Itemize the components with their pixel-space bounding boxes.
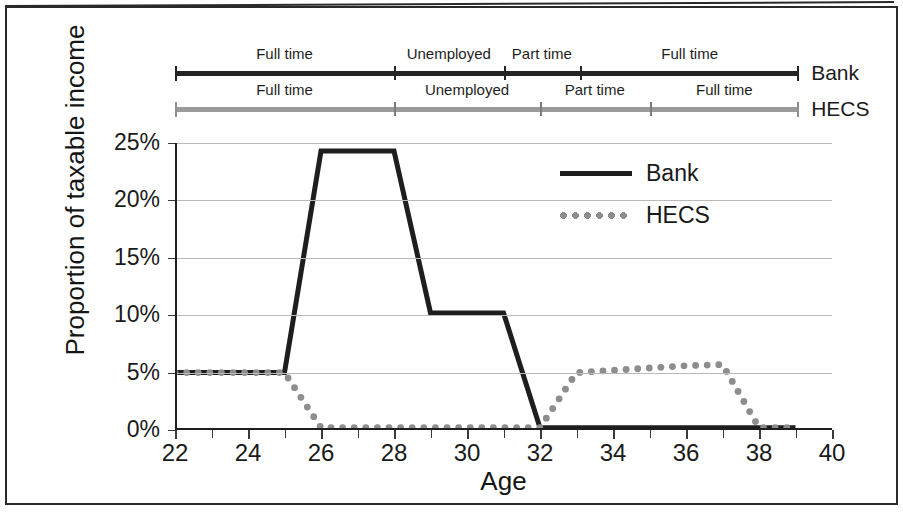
y-tick-mark <box>168 430 175 431</box>
timeline-track <box>175 107 799 112</box>
timeline-end-cap <box>797 66 799 81</box>
timeline-divider <box>580 66 582 80</box>
x-tick-mark-major <box>248 430 250 439</box>
y-tick-label: 10% <box>90 303 160 326</box>
timeline-start-cap <box>175 66 177 81</box>
timeline-divider <box>540 102 542 116</box>
x-tick-mark-major <box>467 430 469 439</box>
x-axis-title: Age <box>175 466 832 496</box>
timeline-divider <box>394 66 396 80</box>
timeline-divider <box>504 66 506 80</box>
chart-figure: Full timeUnemployedPart timeFull timeBan… <box>0 0 903 512</box>
timeline-track <box>175 71 799 76</box>
x-tick-label: 28 <box>364 440 424 466</box>
x-tick-mark-minor <box>285 430 286 438</box>
x-tick-mark-minor <box>723 430 724 438</box>
x-tick-label: 30 <box>437 440 497 466</box>
x-tick-mark-major <box>759 430 761 439</box>
timeline-segment-label: Unemployed <box>394 80 540 100</box>
legend-swatch-hecs <box>560 212 632 219</box>
timeline-segment-label: Full time <box>175 44 394 64</box>
legend-item-hecs: HECS <box>560 199 770 241</box>
legend-label: HECS <box>646 199 710 232</box>
timeline-series-label-bank: Bank <box>811 60 859 86</box>
x-tick-label: 32 <box>510 440 570 466</box>
y-tick-mark <box>168 143 175 144</box>
x-tick-label: 34 <box>583 440 643 466</box>
timeline-series-label-hecs: HECS <box>811 96 869 122</box>
timeline-start-cap <box>175 102 177 117</box>
y-tick-label: 20% <box>90 188 160 211</box>
y-tick-label: 15% <box>90 246 160 269</box>
timeline-divider <box>650 102 652 116</box>
timeline-end-cap <box>797 102 799 117</box>
y-tick-label: 5% <box>90 361 160 384</box>
legend-item-bank: Bank <box>560 157 770 199</box>
y-tick-mark <box>168 200 175 201</box>
x-tick-mark-major <box>321 430 323 439</box>
timeline-hecs: Full timeUnemployedPart timeFull time <box>175 80 799 114</box>
x-tick-label: 38 <box>729 440 789 466</box>
x-tick-label: 40 <box>802 440 862 466</box>
y-tick-label: 0% <box>90 418 160 441</box>
timeline-segment-label: Full time <box>580 44 799 64</box>
timeline-segment-label: Part time <box>540 80 650 100</box>
timeline-segment-label: Unemployed <box>394 44 504 64</box>
legend-swatch-bank <box>560 171 632 176</box>
x-tick-mark-major <box>832 430 834 439</box>
y-tick-mark <box>168 373 175 374</box>
y-tick-mark <box>168 315 175 316</box>
timeline-segment-label: Part time <box>504 44 581 64</box>
x-tick-mark-minor <box>431 430 432 438</box>
legend-label: Bank <box>646 157 698 190</box>
x-tick-label: 22 <box>145 440 205 466</box>
timeline-bank: Full timeUnemployedPart timeFull time <box>175 44 799 78</box>
x-tick-mark-minor <box>650 430 651 438</box>
y-axis-title: Proportion of taxable income <box>60 0 90 385</box>
timeline-segment-label: Full time <box>650 80 800 100</box>
x-tick-label: 24 <box>218 440 278 466</box>
x-tick-label: 36 <box>656 440 716 466</box>
x-tick-label: 26 <box>291 440 351 466</box>
x-tick-mark-major <box>540 430 542 439</box>
x-tick-mark-major <box>686 430 688 439</box>
y-tick-mark <box>168 258 175 259</box>
x-tick-mark-minor <box>577 430 578 438</box>
x-tick-mark-minor <box>358 430 359 438</box>
x-tick-mark-minor <box>504 430 505 438</box>
x-tick-mark-major <box>613 430 615 439</box>
x-tick-mark-major <box>175 430 177 439</box>
x-tick-mark-minor <box>212 430 213 438</box>
x-tick-mark-minor <box>796 430 797 438</box>
x-tick-mark-major <box>394 430 396 439</box>
timeline-divider <box>394 102 396 116</box>
timeline-segment-label: Full time <box>175 80 394 100</box>
y-tick-label: 25% <box>90 131 160 154</box>
chart-legend: BankHECS <box>560 157 770 241</box>
